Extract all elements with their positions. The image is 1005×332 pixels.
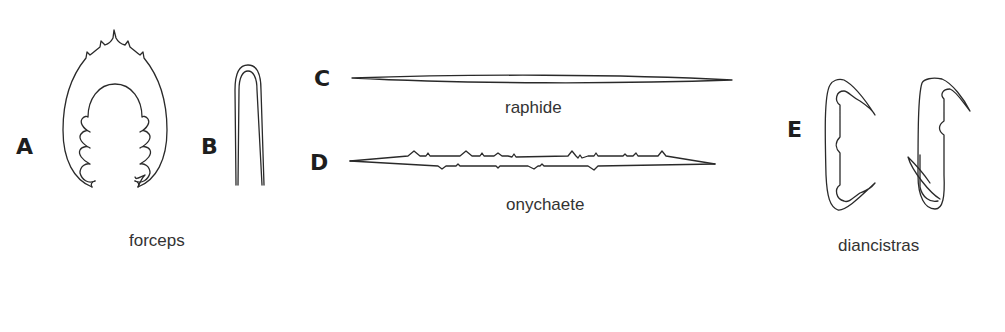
panel-label-e: E xyxy=(787,119,802,141)
forceps-simple-icon xyxy=(230,60,270,190)
forceps-spiked-icon xyxy=(60,20,180,200)
panel-label-d: D xyxy=(310,152,328,174)
caption-raphide: raphide xyxy=(505,99,562,116)
caption-forceps: forceps xyxy=(129,232,185,249)
diancistra-c-shape-icon xyxy=(820,75,890,215)
panel-label-c: C xyxy=(314,68,330,90)
caption-onychaete: onychaete xyxy=(506,196,584,213)
diancistra-s-shape-icon xyxy=(900,75,975,215)
onychaete-icon xyxy=(348,148,718,178)
panel-label-a: A xyxy=(16,136,33,158)
panel-label-b: B xyxy=(201,136,218,158)
caption-diancistras: diancistras xyxy=(838,237,919,254)
raphide-icon xyxy=(350,70,735,90)
